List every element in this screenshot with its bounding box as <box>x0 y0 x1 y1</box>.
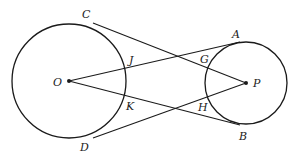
diagram-svg: C A J G O P K H D B <box>0 0 295 157</box>
label-k: K <box>125 100 135 113</box>
label-c: C <box>82 8 91 21</box>
geometry-diagram: C A J G O P K H D B <box>0 0 295 157</box>
point-o <box>67 79 71 83</box>
label-g: G <box>200 53 209 66</box>
segment-o-a <box>69 42 240 81</box>
label-b: B <box>238 130 247 143</box>
label-j: J <box>127 54 134 67</box>
label-a: A <box>231 28 240 41</box>
label-d: D <box>79 141 89 154</box>
point-p <box>244 81 248 85</box>
label-p: P <box>252 77 261 90</box>
label-h: H <box>197 101 208 114</box>
segment-o-b <box>69 81 240 125</box>
label-o: O <box>53 76 62 89</box>
segment-d-p <box>93 83 246 138</box>
segment-c-p <box>93 23 246 83</box>
